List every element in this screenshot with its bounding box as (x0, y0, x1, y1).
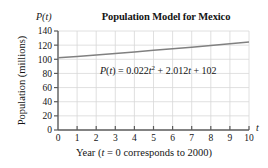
y-tick-label: 0 (47, 125, 52, 135)
y-tick-group: 020406080100120140 (38, 26, 58, 135)
y-tick-label: 120 (38, 41, 53, 51)
plot-canvas: 020406080100120140 012345678910 P(t) = 0… (0, 0, 268, 168)
y-tick-label: 100 (38, 55, 53, 65)
y-tick-label: 60 (43, 83, 53, 93)
y-tick-label: 140 (38, 26, 53, 36)
x-tick-group: 012345678910 (56, 126, 254, 143)
gridlines-group (58, 31, 249, 130)
equation-annotation: P(t) = 0.022t2 + 2.012t + 102 (99, 64, 217, 77)
x-tick-label: 1 (75, 133, 80, 143)
x-tick-label: 4 (132, 133, 137, 143)
y-tick-label: 40 (43, 97, 53, 107)
x-tick-label: 10 (244, 133, 254, 143)
y-tick-label: 80 (43, 69, 53, 79)
x-tick-label: 2 (94, 133, 99, 143)
x-tick-label: 9 (228, 133, 233, 143)
x-tick-label: 3 (113, 133, 118, 143)
x-tick-label: 0 (56, 133, 61, 143)
x-tick-label: 6 (170, 133, 175, 143)
x-tick-label: 7 (189, 133, 194, 143)
y-tick-label: 20 (43, 111, 53, 121)
x-tick-label: 5 (151, 133, 156, 143)
population-model-chart-figure: Population Model for Mexico P(t) t Popul… (0, 0, 268, 168)
x-tick-label: 8 (208, 133, 213, 143)
